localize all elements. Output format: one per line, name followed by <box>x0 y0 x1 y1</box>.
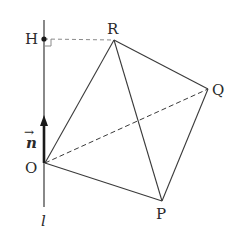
segment-PQ <box>162 89 208 201</box>
segment-RQ <box>114 40 208 89</box>
segment-OQ-dashed <box>45 89 208 163</box>
label-O: O <box>25 159 37 177</box>
label-R: R <box>107 20 119 38</box>
segment-HR-dashed <box>44 39 114 40</box>
segment-RP <box>114 40 162 201</box>
segment-OP <box>45 163 162 201</box>
point-H <box>41 36 46 41</box>
tetrahedron-diagram: H R Q O P l → n <box>0 0 240 237</box>
label-P: P <box>156 205 166 223</box>
label-l: l <box>41 212 46 230</box>
label-n: n <box>26 134 37 152</box>
segment-OR <box>45 40 114 163</box>
label-H: H <box>25 30 38 48</box>
vector-n-arrowhead-icon <box>40 115 48 126</box>
label-Q: Q <box>212 81 224 99</box>
